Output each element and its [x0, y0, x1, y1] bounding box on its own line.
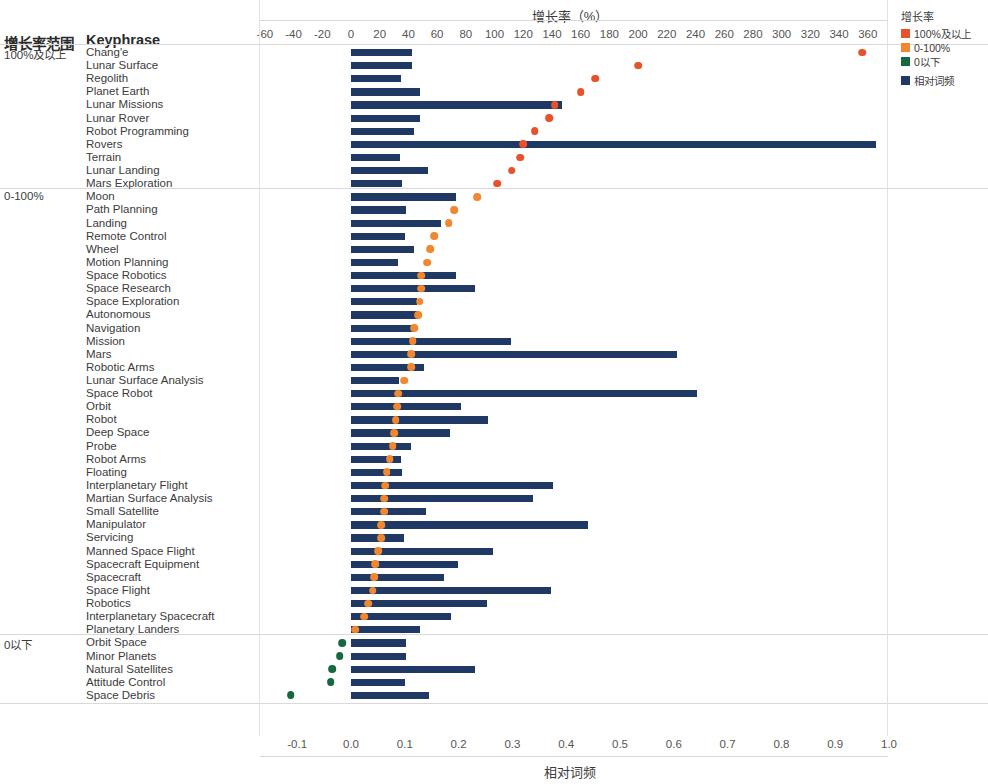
chart-row[interactable]: Regolith	[0, 72, 988, 85]
growth-rate-dot[interactable]	[336, 652, 344, 660]
frequency-bar[interactable]	[351, 692, 429, 699]
growth-rate-dot[interactable]	[360, 613, 368, 621]
frequency-bar[interactable]	[351, 495, 533, 502]
chart-row[interactable]: Mission	[0, 335, 988, 348]
chart-row[interactable]: Deep Space	[0, 426, 988, 439]
chart-row[interactable]: 0以下Orbit Space	[0, 636, 988, 649]
growth-rate-dot[interactable]	[393, 403, 401, 411]
chart-row[interactable]: Natural Satellites	[0, 663, 988, 676]
growth-rate-dot[interactable]	[339, 639, 347, 647]
growth-rate-dot[interactable]	[416, 298, 424, 306]
growth-rate-dot[interactable]	[370, 573, 378, 581]
frequency-bar[interactable]	[351, 272, 456, 279]
frequency-bar[interactable]	[351, 141, 876, 148]
frequency-bar[interactable]	[351, 206, 406, 213]
frequency-bar[interactable]	[351, 561, 458, 568]
chart-row[interactable]: Manned Space Flight	[0, 545, 988, 558]
chart-row[interactable]: Small Satellite	[0, 505, 988, 518]
chart-row[interactable]: Lunar Surface	[0, 59, 988, 72]
growth-rate-dot[interactable]	[372, 560, 380, 568]
growth-rate-dot[interactable]	[545, 114, 553, 122]
legend-item[interactable]: 100%及以上	[901, 27, 987, 40]
chart-row[interactable]: Lunar Missions	[0, 98, 988, 111]
growth-rate-dot[interactable]	[352, 626, 360, 634]
chart-row[interactable]: Mars Exploration	[0, 177, 988, 190]
frequency-bar[interactable]	[351, 639, 406, 646]
chart-row[interactable]: Space Robotics	[0, 269, 988, 282]
chart-row[interactable]: Space Robot	[0, 387, 988, 400]
frequency-bar[interactable]	[351, 548, 493, 555]
growth-rate-dot[interactable]	[531, 127, 539, 135]
growth-rate-dot[interactable]	[329, 665, 337, 673]
frequency-bar[interactable]	[351, 403, 461, 410]
chart-row[interactable]: Space Exploration	[0, 295, 988, 308]
chart-row[interactable]: Orbit	[0, 400, 988, 413]
frequency-bar[interactable]	[351, 679, 405, 686]
legend-item[interactable]: 相对词频	[901, 74, 987, 87]
growth-rate-dot[interactable]	[418, 272, 426, 280]
growth-rate-dot[interactable]	[407, 350, 415, 358]
growth-rate-dot[interactable]	[407, 363, 415, 371]
frequency-bar[interactable]	[351, 285, 475, 292]
frequency-bar[interactable]	[351, 115, 420, 122]
chart-row[interactable]: Navigation	[0, 322, 988, 335]
growth-rate-dot[interactable]	[386, 455, 394, 463]
chart-row[interactable]: Minor Planets	[0, 650, 988, 663]
frequency-bar[interactable]	[351, 377, 399, 384]
frequency-bar[interactable]	[351, 180, 402, 187]
chart-row[interactable]: Path Planning	[0, 203, 988, 216]
growth-rate-dot[interactable]	[430, 232, 438, 240]
chart-row[interactable]: Rovers	[0, 138, 988, 151]
chart-row[interactable]: Robotic Arms	[0, 361, 988, 374]
frequency-bar[interactable]	[351, 259, 398, 266]
chart-row[interactable]: Servicing	[0, 531, 988, 544]
chart-row[interactable]: Lunar Surface Analysis	[0, 374, 988, 387]
frequency-bar[interactable]	[351, 101, 562, 108]
frequency-bar[interactable]	[351, 443, 411, 450]
frequency-bar[interactable]	[351, 298, 417, 305]
chart-row[interactable]: Lunar Rover	[0, 112, 988, 125]
frequency-bar[interactable]	[351, 75, 401, 82]
growth-rate-dot[interactable]	[517, 154, 525, 162]
chart-row[interactable]: Robotics	[0, 597, 988, 610]
growth-rate-dot[interactable]	[519, 140, 527, 148]
growth-rate-dot[interactable]	[395, 390, 403, 398]
chart-row[interactable]: Interplanetary Spacecraft	[0, 610, 988, 623]
frequency-bar[interactable]	[351, 49, 412, 56]
growth-rate-dot[interactable]	[858, 49, 866, 57]
growth-rate-dot[interactable]	[410, 324, 418, 332]
frequency-bar[interactable]	[351, 62, 412, 69]
growth-rate-dot[interactable]	[389, 442, 397, 450]
frequency-bar[interactable]	[351, 325, 414, 332]
frequency-bar[interactable]	[351, 390, 697, 397]
growth-rate-dot[interactable]	[377, 534, 385, 542]
chart-row[interactable]: Manipulator	[0, 518, 988, 531]
frequency-bar[interactable]	[351, 154, 400, 161]
growth-rate-dot[interactable]	[327, 678, 335, 686]
chart-row[interactable]: Autonomous	[0, 308, 988, 321]
growth-rate-dot[interactable]	[634, 62, 642, 70]
legend-item[interactable]: 0-100%	[901, 41, 987, 54]
growth-rate-dot[interactable]	[415, 311, 423, 319]
growth-rate-dot[interactable]	[474, 193, 482, 201]
growth-rate-dot[interactable]	[374, 547, 382, 555]
chart-row[interactable]: Space Research	[0, 282, 988, 295]
chart-row[interactable]: Terrain	[0, 151, 988, 164]
frequency-bar[interactable]	[351, 311, 418, 318]
frequency-bar[interactable]	[351, 666, 475, 673]
frequency-bar[interactable]	[351, 193, 456, 200]
growth-rate-dot[interactable]	[383, 468, 391, 476]
frequency-bar[interactable]	[351, 246, 414, 253]
growth-rate-dot[interactable]	[423, 259, 431, 267]
growth-rate-dot[interactable]	[451, 206, 459, 214]
chart-row[interactable]: Planet Earth	[0, 85, 988, 98]
growth-rate-dot[interactable]	[380, 508, 388, 516]
growth-rate-dot[interactable]	[287, 691, 295, 699]
growth-rate-dot[interactable]	[418, 285, 426, 293]
frequency-bar[interactable]	[351, 574, 444, 581]
growth-rate-dot[interactable]	[369, 587, 377, 595]
chart-row[interactable]: Lunar Landing	[0, 164, 988, 177]
growth-rate-dot[interactable]	[591, 75, 599, 83]
chart-row[interactable]: Planetary Landers	[0, 623, 988, 636]
growth-rate-dot[interactable]	[392, 416, 400, 424]
